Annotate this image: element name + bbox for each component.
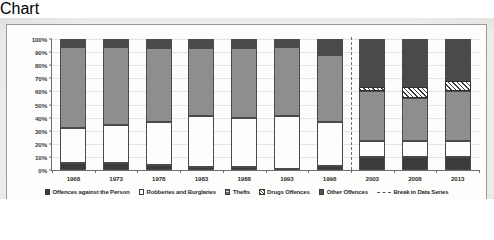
x-tick-label-1988: 1988 (237, 175, 250, 182)
y-tick-mark (49, 130, 52, 131)
bar-segment-other[interactable] (146, 39, 172, 48)
bar-segment-robbery[interactable] (317, 122, 343, 167)
bar-segment-robbery[interactable] (445, 141, 471, 157)
bar-segment-drugs[interactable] (359, 87, 385, 91)
y-tick-label: 0% (38, 167, 47, 174)
bar-segment-other[interactable] (359, 39, 385, 87)
bar-segment-theft[interactable] (146, 48, 172, 121)
bar-segment-theft[interactable] (103, 47, 129, 126)
x-tick-label-2008: 2008 (408, 175, 421, 182)
legend-item-5[interactable]: Break in Data Series (377, 189, 449, 195)
y-tick-mark (49, 65, 52, 66)
legend-label: Offences against the Person (53, 189, 130, 195)
bar-segment-other[interactable] (60, 39, 86, 47)
x-tick-label-1968: 1968 (67, 175, 80, 182)
bar-segment-theft[interactable] (231, 48, 257, 117)
legend-item-2[interactable]: Thefts (225, 189, 250, 195)
legend-swatch-other-icon (319, 189, 325, 195)
legend-item-4[interactable]: Other Offences (319, 189, 368, 195)
bar-segment-drugs[interactable] (445, 81, 471, 91)
x-tick-mark (394, 170, 395, 173)
break-in-data-series-line (351, 37, 352, 170)
bar-segment-theft[interactable] (274, 47, 300, 116)
bar-1993[interactable] (274, 39, 300, 170)
x-tick-label-1993: 1993 (280, 175, 293, 182)
dashed-line-icon (377, 192, 391, 193)
y-tick-mark (49, 143, 52, 144)
legend-label: Break in Data Series (393, 189, 448, 195)
bar-segment-drugs[interactable] (402, 87, 428, 97)
bar-segment-other[interactable] (317, 39, 343, 55)
y-tick-label: 100% (32, 36, 47, 43)
legend-label: Drugs Offences (267, 189, 310, 195)
x-tick-mark (436, 170, 437, 173)
bar-segment-other[interactable] (103, 39, 129, 47)
legend-label: Robberies and Burglaries (147, 189, 216, 195)
bar-1998[interactable] (317, 39, 343, 170)
bar-segment-person[interactable] (402, 157, 428, 170)
legend-label: Thefts (233, 189, 250, 195)
bar-segment-other[interactable] (188, 39, 214, 48)
legend-item-3[interactable]: Drugs Offences (259, 189, 310, 195)
bar-segment-other[interactable] (231, 39, 257, 48)
bar-2008[interactable] (402, 39, 428, 170)
bar-2013[interactable] (445, 39, 471, 170)
bar-segment-person[interactable] (445, 157, 471, 170)
y-tick-label: 30% (35, 127, 47, 134)
bar-segment-robbery[interactable] (359, 141, 385, 157)
y-tick-mark (49, 39, 52, 40)
x-tick-mark (351, 170, 352, 173)
bar-segment-theft[interactable] (402, 98, 428, 141)
y-tick-label: 80% (35, 62, 47, 69)
bar-segment-person[interactable] (103, 163, 129, 170)
bar-segment-theft[interactable] (60, 47, 86, 128)
bar-segment-theft[interactable] (445, 91, 471, 141)
bar-segment-other[interactable] (402, 39, 428, 87)
chart-legend: Offences against the PersonRobberies and… (15, 186, 478, 198)
bar-segment-robbery[interactable] (274, 116, 300, 168)
x-tick-label-1983: 1983 (195, 175, 208, 182)
x-tick-label-2003: 2003 (366, 175, 379, 182)
bar-segment-person[interactable] (60, 163, 86, 170)
bar-segment-robbery[interactable] (103, 125, 129, 163)
x-tick-mark (308, 170, 309, 173)
bar-segment-person[interactable] (359, 157, 385, 170)
legend-swatch-drugs-icon (259, 189, 265, 195)
bar-segment-person[interactable] (188, 167, 214, 170)
bar-segment-theft[interactable] (188, 48, 214, 116)
bar-segment-person[interactable] (146, 165, 172, 170)
bar-1968[interactable] (60, 39, 86, 170)
y-tick-label: 60% (35, 88, 47, 95)
bar-segment-other[interactable] (445, 39, 471, 81)
bar-segment-person[interactable] (231, 167, 257, 170)
x-tick-label-1978: 1978 (152, 175, 165, 182)
y-tick-label: 20% (35, 140, 47, 147)
bar-1983[interactable] (188, 39, 214, 170)
bar-segment-robbery[interactable] (231, 118, 257, 168)
bar-1973[interactable] (103, 39, 129, 170)
y-tick-mark (49, 78, 52, 79)
bar-segment-theft[interactable] (317, 55, 343, 122)
bar-segment-robbery[interactable] (402, 141, 428, 157)
legend-swatch-person-icon (45, 189, 51, 195)
legend-item-1[interactable]: Robberies and Burglaries (139, 189, 216, 195)
bar-segment-robbery[interactable] (60, 128, 86, 163)
bar-1988[interactable] (231, 39, 257, 170)
y-tick-mark (49, 91, 52, 92)
y-tick-mark (49, 52, 52, 53)
x-tick-mark (52, 170, 53, 173)
y-tick-label: 70% (35, 75, 47, 82)
legend-item-0[interactable]: Offences against the Person (45, 189, 130, 195)
bar-segment-other[interactable] (274, 39, 300, 47)
legend-swatch-theft-icon (225, 189, 231, 195)
bar-segment-person[interactable] (317, 166, 343, 170)
y-tick-label: 50% (35, 101, 47, 108)
legend-swatch-robbery-icon (139, 189, 145, 195)
bar-1978[interactable] (146, 39, 172, 170)
bar-segment-robbery[interactable] (188, 116, 214, 167)
bar-segment-robbery[interactable] (146, 122, 172, 165)
bar-segment-theft[interactable] (359, 91, 385, 141)
bar-2003[interactable] (359, 39, 385, 170)
y-tick-mark (49, 104, 52, 105)
x-tick-mark (223, 170, 224, 173)
